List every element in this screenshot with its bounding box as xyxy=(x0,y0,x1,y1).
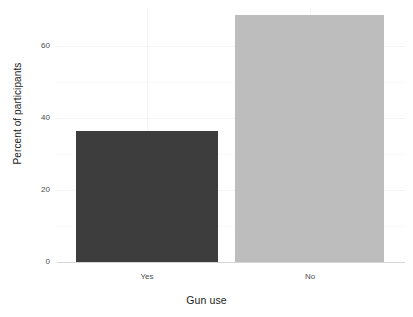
bar-chart: 0 20 40 60 Percent of participants Yes N… xyxy=(0,0,413,317)
plot-area xyxy=(57,8,405,262)
y-axis-tick-label-0: 0 xyxy=(46,258,50,266)
x-axis-title: Gun use xyxy=(0,294,413,306)
x-axis-tick-label-yes: Yes xyxy=(140,273,153,281)
x-axis-tick-label-no: No xyxy=(305,273,315,281)
x-axis-line xyxy=(57,262,405,263)
bar-yes xyxy=(76,131,218,262)
y-axis-tick-label-40: 40 xyxy=(41,114,50,122)
y-axis-tick-label-60: 60 xyxy=(41,42,50,50)
y-axis-tick-labels: 0 20 40 60 xyxy=(0,8,50,262)
y-axis-title: Percent of participants xyxy=(12,39,23,189)
bar-no xyxy=(235,15,384,262)
y-axis-tick-label-20: 20 xyxy=(41,186,50,194)
